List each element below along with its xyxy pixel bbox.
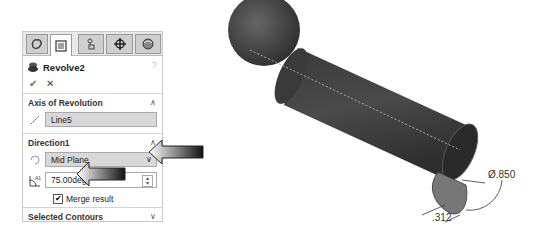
tab-property-manager[interactable] [50,34,72,56]
help-icon[interactable]: ? [152,60,157,70]
property-manager-icon [54,39,68,53]
callout-arrow-end-condition [148,137,204,167]
ok-button[interactable]: ✔ [29,78,37,89]
axis-of-revolution-header[interactable]: Axis of Revolution [28,98,103,108]
selected-contours-header[interactable]: Selected Contours [28,212,103,222]
feature-manager-icon [30,37,44,51]
callout-arrow-angle [76,160,126,188]
tab-dimxpert-manager[interactable] [106,34,133,54]
model-viewport[interactable] [220,0,547,236]
divider [23,207,162,208]
configuration-manager-icon [84,37,98,51]
cancel-button[interactable]: ✕ [46,78,54,89]
tab-feature-manager[interactable] [26,34,48,54]
merge-result-checkbox-row[interactable]: ✔ Merge result [53,194,113,204]
axis-selection-field[interactable]: Line5 [45,112,157,127]
cylinder-body [284,48,466,182]
reverse-direction-icon[interactable] [29,154,41,166]
divider [23,93,162,94]
merge-result-label: Merge result [66,194,113,204]
chevron-down-icon[interactable]: ∨ [150,212,156,221]
feature-title: Revolve2 [43,62,85,73]
axis-line-icon [29,114,41,126]
chevron-up-icon[interactable]: ∧ [150,98,156,107]
dimxpert-manager-icon [113,37,127,51]
manager-tabs [23,32,162,56]
tab-configuration-manager[interactable] [78,34,104,54]
divider [23,133,162,134]
ok-cancel-row: ✔ ✕ [29,78,54,89]
feature-header: Revolve2 ? [27,59,159,75]
angle-icon: A1 [28,174,42,188]
revolve-feature-icon [27,61,39,73]
revolve-preview [432,172,466,214]
offset-dimension[interactable]: .312 [432,212,451,223]
display-manager-icon [141,37,155,51]
merge-result-checkbox[interactable]: ✔ [53,194,63,204]
diameter-dimension[interactable]: Ø.850 [488,169,515,180]
angle-spinner[interactable]: ▴▾ [142,175,153,187]
svg-text:A1: A1 [35,175,41,181]
direction1-header[interactable]: Direction1 [28,138,70,148]
property-manager-panel: Revolve2 ? ✔ ✕ Axis of Revolution ∧ Line… [22,31,163,222]
tab-display-manager[interactable] [135,34,161,54]
